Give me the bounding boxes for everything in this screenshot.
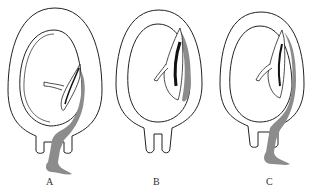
panel-label-a: A [46,176,53,187]
uterus-diagram-c [206,0,316,193]
panel-label-c: C [266,176,273,187]
uterus-diagram-b [104,0,214,193]
panel-b [104,0,214,193]
uterus-diagram-a [0,0,110,193]
panel-label-b: B [153,176,160,187]
panel-c [206,0,316,193]
panel-a [0,0,110,193]
